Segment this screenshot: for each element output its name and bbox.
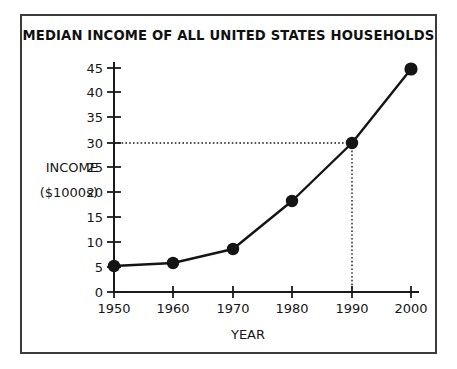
x-tick-labels: 1950 1960 1970 1980 1990 2000 — [97, 301, 427, 316]
y-tick-label-45: 45 — [86, 61, 103, 76]
data-point-1980[interactable] — [286, 195, 298, 207]
x-tick-label-1950: 1950 — [97, 301, 130, 316]
data-point-2000[interactable] — [404, 62, 417, 75]
axes-group — [114, 62, 419, 292]
y-tick-label-35: 35 — [86, 110, 103, 125]
y-tick-label-10: 10 — [86, 235, 103, 250]
x-tick-label-1980: 1980 — [275, 301, 308, 316]
y-tick-label-0: 0 — [95, 285, 103, 300]
data-point-1960[interactable] — [167, 257, 179, 269]
x-tick-label-1960: 1960 — [156, 301, 189, 316]
y-axis-title-line2: ($1000s) — [40, 185, 98, 200]
y-axis-title-line1: INCOME — [46, 160, 98, 175]
x-tick-label-1990: 1990 — [335, 301, 368, 316]
data-point-markers — [108, 62, 418, 272]
y-tick-label-40: 40 — [86, 85, 103, 100]
y-tick-label-15: 15 — [86, 210, 103, 225]
x-tick-label-2000: 2000 — [394, 301, 427, 316]
data-point-1970[interactable] — [227, 243, 239, 255]
x-tick-label-1970: 1970 — [216, 301, 249, 316]
y-tick-label-5: 5 — [95, 260, 103, 275]
guideline-group — [114, 143, 352, 292]
y-tick-labels: 45 40 35 30 25 20 15 10 5 0 — [86, 61, 103, 300]
data-point-1950[interactable] — [108, 260, 120, 272]
figure-container: MEDIAN INCOME OF ALL UNITED STATES HOUSE… — [0, 0, 457, 369]
x-axis-title: YEAR — [230, 327, 265, 342]
y-axis-title: INCOME ($1000s) — [40, 160, 98, 200]
data-series-line — [114, 69, 411, 266]
y-tick-label-30: 30 — [86, 136, 103, 151]
data-point-1990[interactable] — [346, 137, 358, 149]
line-chart-plot: 45 40 35 30 25 20 15 10 5 0 1950 1960 19… — [0, 0, 457, 369]
